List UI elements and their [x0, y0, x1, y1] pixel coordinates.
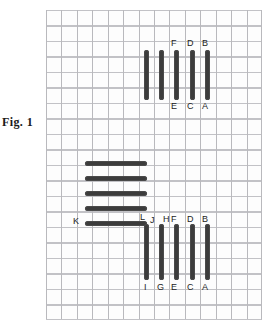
- label-upper-top-F: F: [171, 38, 177, 48]
- label-lower-top-B: B: [202, 214, 208, 224]
- label-middle-left-K: K: [73, 216, 79, 226]
- label-middle-right-L: L: [140, 212, 145, 222]
- label-upper-bottom-E: E: [171, 101, 177, 111]
- grid-panel: [46, 10, 262, 320]
- bar-middle-4: [85, 221, 147, 226]
- label-lower-top-F: F: [171, 214, 177, 224]
- bar-middle-2: [85, 191, 147, 196]
- label-lower-top-J: J: [150, 215, 155, 225]
- bar-lower-4: [205, 224, 210, 280]
- bar-lower-3: [190, 224, 195, 280]
- label-lower-bottom-C: C: [187, 282, 194, 292]
- figure-root: Fig. 1 F D B E C A K L J H F D B: [0, 0, 276, 333]
- bar-upper-4: [205, 50, 210, 100]
- bar-middle-1: [85, 176, 147, 181]
- bar-lower-1: [159, 224, 164, 280]
- bar-lower-2: [174, 224, 179, 280]
- label-upper-bottom-A: A: [202, 101, 208, 111]
- bar-upper-3: [190, 50, 195, 100]
- bar-upper-0: [144, 50, 149, 100]
- bar-upper-1: [159, 50, 164, 100]
- label-upper-bottom-C: C: [187, 101, 194, 111]
- label-lower-top-D: D: [187, 214, 194, 224]
- label-lower-bottom-E: E: [171, 282, 177, 292]
- label-lower-bottom-A: A: [202, 282, 208, 292]
- label-upper-top-D: D: [187, 38, 194, 48]
- label-lower-bottom-G: G: [157, 282, 164, 292]
- bar-middle-3: [85, 206, 147, 211]
- bar-lower-0: [144, 224, 149, 280]
- bar-upper-2: [174, 50, 179, 100]
- label-lower-top-H: H: [163, 214, 170, 224]
- label-lower-bottom-I: I: [144, 282, 147, 292]
- bar-middle-0: [85, 161, 147, 166]
- label-upper-top-B: B: [202, 38, 208, 48]
- figure-caption: Fig. 1: [2, 115, 33, 130]
